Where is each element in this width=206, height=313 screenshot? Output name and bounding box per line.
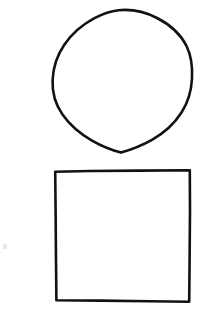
drawing-canvas: Hand-drawn shapes Circle Square	[0, 0, 206, 313]
paper-background	[0, 0, 206, 313]
paper-smudge	[3, 244, 7, 249]
shapes-illustration	[0, 0, 206, 313]
